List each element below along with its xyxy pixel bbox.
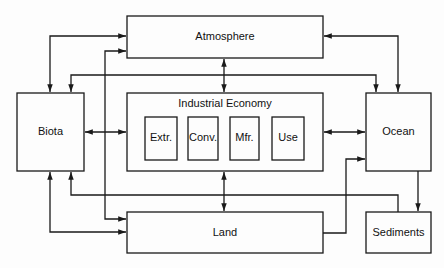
arrow-sediments-biota <box>71 172 398 212</box>
extr-label: Extr. <box>145 131 177 143</box>
mfr-label: Mfr. <box>230 131 259 143</box>
arrow-land-ocean <box>323 159 365 233</box>
arrow-atmosphere-land <box>105 51 126 219</box>
conv-label: Conv. <box>188 131 218 143</box>
atmosphere-label: Atmosphere <box>127 30 323 42</box>
land-label: Land <box>127 226 323 238</box>
use-label: Use <box>272 131 304 143</box>
sediments-label: Sediments <box>366 226 431 238</box>
arrow-biota-land <box>50 172 126 232</box>
ocean-label: Ocean <box>366 125 431 137</box>
industrial-economy-label: Industrial Economy <box>127 97 323 109</box>
arrow-biota-atmosphere <box>50 36 126 92</box>
biota-label: Biota <box>17 125 84 137</box>
arrow-atmosphere-ocean <box>324 36 398 92</box>
